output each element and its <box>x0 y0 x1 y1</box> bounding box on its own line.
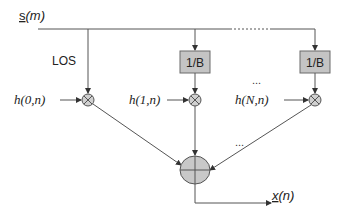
coef-label-0: h(0,n) <box>14 92 45 107</box>
branch-n: 1/B h(N,n) <box>210 29 330 170</box>
branch-1: 1/B h(1,n) <box>129 29 210 155</box>
output-label: x(n) <box>271 188 294 203</box>
channel-model-diagram: s(m) LOS h(0,n) 1/B h(1,n) <box>0 0 344 220</box>
coef-label-n: h(N,n) <box>235 92 269 107</box>
input-label: s(m) <box>19 8 45 23</box>
gain-label-n: 1/B <box>306 56 324 70</box>
multiplier-icon-0 <box>82 94 94 106</box>
los-label: LOS <box>52 54 76 68</box>
gain-label-1: 1/B <box>186 56 204 70</box>
svg-text:x(n): x(n) <box>271 188 294 203</box>
summation-node-icon <box>180 156 210 184</box>
svg-text:s(m): s(m) <box>19 8 45 23</box>
multiplier-icon-n <box>309 94 321 106</box>
output-path <box>195 184 271 203</box>
multiplier-icon-1 <box>189 94 201 106</box>
coef-label-1: h(1,n) <box>129 92 160 107</box>
ellipsis-branches: ... <box>252 74 261 86</box>
ellipsis-sum-inputs: ... <box>235 136 244 148</box>
